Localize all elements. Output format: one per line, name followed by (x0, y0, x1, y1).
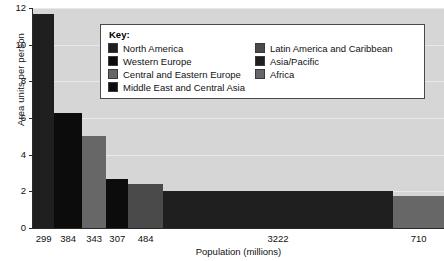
x-axis-tick-label: 3222 (163, 232, 393, 246)
legend-title: Key: (109, 29, 417, 40)
x-axis-tick-label: 710 (393, 232, 444, 246)
bar (106, 179, 128, 229)
legend-item: Western Europe (108, 55, 245, 67)
legend-item-label: Africa (270, 69, 294, 80)
legend-item: Latin America and Caribbean (255, 42, 393, 54)
x-axis-tick-label: 384 (54, 232, 81, 246)
y-axis-tick-label: 2 (0, 186, 26, 196)
legend-item: North America (108, 42, 245, 54)
legend-box: Key: North AmericaWestern EuropeCentral … (100, 24, 425, 99)
legend-item: Africa (255, 68, 393, 80)
x-axis-title: Population (millions) (33, 246, 444, 257)
legend-swatch-icon (108, 56, 118, 66)
legend-swatch-icon (255, 43, 265, 53)
legend-item-label: Asia/Pacific (270, 56, 319, 67)
y-axis-tick-label: 6 (0, 113, 26, 123)
x-axis-tick-label: 484 (128, 232, 163, 246)
x-axis-ticks: 2993843433074843222710 (33, 232, 444, 246)
legend-item-label: Middle East and Central Asia (123, 82, 245, 93)
legend-item: Middle East and Central Asia (108, 81, 245, 93)
legend-item-label: Central and Eastern Europe (123, 69, 241, 80)
legend-item: Asia/Pacific (255, 55, 393, 67)
y-axis-tick-label: 8 (0, 76, 26, 86)
legend-item-label: Latin America and Caribbean (270, 43, 393, 54)
x-axis-tick-label: 343 (82, 232, 107, 246)
legend-item-label: North America (123, 43, 183, 54)
legend-swatch-icon (108, 43, 118, 53)
legend-swatch-icon (255, 69, 265, 79)
legend-swatch-icon (255, 56, 265, 66)
y-axis-tick-label: 10 (0, 40, 26, 50)
x-axis-line (32, 228, 444, 229)
bar (33, 14, 54, 229)
bar (82, 136, 107, 228)
bar-chart: Area units per person 121086420 29938434… (0, 0, 444, 261)
legend-swatch-icon (108, 69, 118, 79)
legend-columns: North AmericaWestern EuropeCentral and E… (108, 42, 417, 93)
y-axis-tick-label: 4 (0, 150, 26, 160)
bar (393, 196, 444, 228)
x-axis-tick-label: 299 (33, 232, 54, 246)
legend-column-2: Latin America and CaribbeanAsia/PacificA… (255, 42, 393, 93)
bar (128, 184, 163, 228)
y-axis-tick-label: 12 (0, 3, 26, 13)
legend-column-1: North AmericaWestern EuropeCentral and E… (108, 42, 245, 93)
legend-swatch-icon (108, 82, 118, 92)
bar (163, 191, 393, 228)
legend-item: Central and Eastern Europe (108, 68, 245, 80)
bar (54, 113, 81, 229)
legend-item-label: Western Europe (123, 56, 191, 67)
y-axis-tick-label: 0 (0, 223, 26, 233)
x-axis-tick-label: 307 (106, 232, 128, 246)
